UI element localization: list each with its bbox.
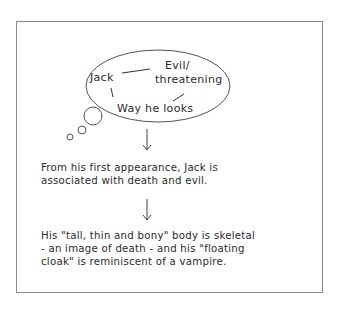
node-jack: Jack [90, 72, 114, 84]
arrow-down-icon [143, 199, 151, 220]
connector-evil-looks [173, 94, 184, 101]
paragraph-second-line3: cloak" is reminiscent of a vampire. [41, 255, 227, 268]
node-looks: Way he looks [117, 103, 193, 115]
paragraph-second-line2: - an image of death - and his "floating [41, 242, 245, 255]
connector-jack-evil [122, 69, 150, 73]
thought-trail-medium [78, 126, 86, 134]
thought-trail-small [67, 134, 73, 140]
node-evil-line2: threatening [155, 74, 222, 86]
connector-jack-looks [111, 88, 113, 97]
node-evil-line1: Evil/ [165, 60, 190, 72]
arrow-down-icon [143, 129, 151, 150]
thought-trail-large [84, 107, 102, 125]
paragraph-second-line1: His "tall, thin and bony" body is skelet… [41, 229, 255, 242]
paragraph-first-line2: associated with death and evil. [41, 174, 208, 187]
paragraph-first-line1: From his first appearance, Jack is [41, 161, 218, 174]
